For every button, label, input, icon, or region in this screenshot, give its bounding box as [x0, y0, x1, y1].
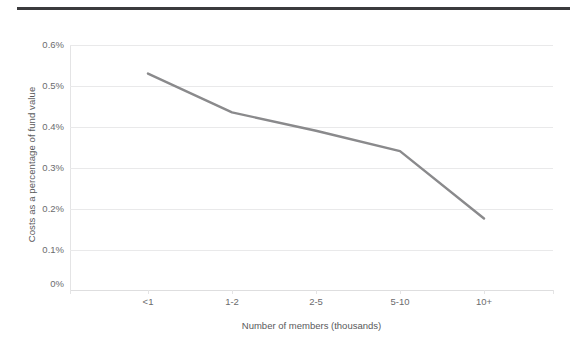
axis-baseline: [70, 290, 553, 291]
x-tick-mark: [553, 290, 554, 294]
x-tick-label: <1: [118, 296, 178, 307]
x-tick-mark: [148, 290, 149, 294]
y-tick-label: 0%: [26, 278, 64, 289]
x-tick-label: 10+: [454, 296, 514, 307]
y-tick-label: 0.6%: [26, 39, 64, 50]
y-tick-label: 0.3%: [26, 162, 64, 173]
y-tick-label: 0.4%: [26, 121, 64, 132]
y-tick-label: 0.5%: [26, 80, 64, 91]
plot-area: [70, 45, 553, 290]
x-tick-label: 5-10: [370, 296, 430, 307]
x-tick-label: 1-2: [202, 296, 262, 307]
x-tick-mark: [70, 290, 71, 294]
chart-figure: Costs as a percentage of fund value 0.6%…: [0, 0, 570, 349]
gridline: [70, 45, 553, 46]
gridline: [70, 86, 553, 87]
x-tick-mark: [484, 290, 485, 294]
y-tick-label: 0.2%: [26, 203, 64, 214]
top-divider-rule: [17, 7, 570, 10]
x-tick-label: 2-5: [286, 296, 346, 307]
x-axis-title: Number of members (thousands): [70, 320, 553, 331]
x-tick-mark: [232, 290, 233, 294]
x-tick-mark: [316, 290, 317, 294]
gridline: [70, 250, 553, 251]
gridline: [70, 127, 553, 128]
gridline: [70, 168, 553, 169]
gridline: [70, 209, 553, 210]
y-tick-label: 0.1%: [26, 244, 64, 255]
x-tick-mark: [400, 290, 401, 294]
